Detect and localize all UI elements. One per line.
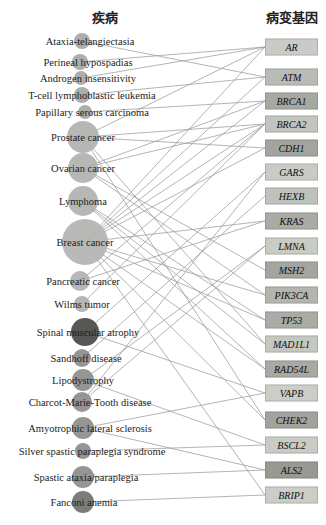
gene-node-vapb: VAPB bbox=[265, 385, 318, 402]
disease-label-breast-cancer: Breast cancer bbox=[57, 237, 114, 248]
gene-label-als2: ALS2 bbox=[281, 465, 303, 476]
gene-node-msh2: MSH2 bbox=[265, 262, 318, 279]
gene-label-tp53: TP53 bbox=[281, 315, 303, 326]
gene-node-gars: GARS bbox=[265, 164, 318, 181]
gene-node-ar: AR bbox=[265, 39, 318, 56]
gene-label-ar: AR bbox=[285, 42, 297, 53]
diseases-column-header: 疾病 bbox=[92, 7, 118, 26]
gene-node-tp53: TP53 bbox=[265, 312, 318, 329]
gene-node-kras: KRAS bbox=[265, 213, 318, 230]
gene-node-brip1: BRIP1 bbox=[265, 487, 318, 504]
disease-label-sandhoff-disease: Sandhoff disease bbox=[50, 353, 121, 364]
gene-label-cdh1: CDH1 bbox=[278, 143, 304, 154]
genes-column-header: 病变基因 bbox=[266, 7, 318, 26]
disease-label-spastic-ataxia-paraplegia: Spastic ataxia/paraplegia bbox=[34, 472, 139, 483]
disease-label-lymphoma: Lymphoma bbox=[59, 196, 107, 207]
gene-label-bscl2: BSCL2 bbox=[277, 440, 305, 451]
disease-label-ataxia-telangiectasia: Ataxia-telangiectasia bbox=[46, 36, 135, 47]
gene-label-msh2: MSH2 bbox=[279, 265, 305, 276]
disease-label-fanconi-anemia: Fanconi anemia bbox=[51, 497, 118, 508]
gene-label-atm: ATM bbox=[282, 72, 302, 83]
gene-label-brca2: BRCA2 bbox=[277, 119, 307, 130]
gene-node-bscl2: BSCL2 bbox=[265, 437, 318, 454]
gene-node-pik3ca: PIK3CA bbox=[265, 287, 318, 304]
disease-label-ovarian-cancer: Ovarian cancer bbox=[51, 163, 115, 174]
gene-label-pik3ca: PIK3CA bbox=[275, 290, 309, 301]
disease-label-lipodystrophy: Lipodystrophy bbox=[52, 375, 114, 386]
disease-label-charcot-marie-tooth-disease: Charcot-Marie-Tooth disease bbox=[29, 397, 152, 408]
gene-node-chek2: CHEK2 bbox=[265, 412, 318, 429]
gene-label-rad54l: RAD54L bbox=[274, 364, 309, 375]
gene-label-gars: GARS bbox=[279, 167, 303, 178]
disease-label-wilms-tumor: Wilms tumor bbox=[54, 299, 109, 310]
gene-node-lmna: LMNA bbox=[265, 238, 318, 255]
edge-breast-cancer--atm bbox=[85, 77, 265, 242]
gene-node-cdh1: CDH1 bbox=[265, 140, 318, 157]
disease-gene-network-figure: 疾病 病变基因 Ataxia-telangiectasiaPerineal hy… bbox=[0, 0, 326, 525]
gene-node-mad1l1: MAD1L1 bbox=[265, 336, 318, 353]
gene-node-brca2: BRCA2 bbox=[265, 116, 318, 133]
disease-label-papillary-serous-carcinoma: Papillary serous carcinoma bbox=[35, 107, 149, 118]
disease-label-spinal-muscular-atrophy: Spinal muscular atrophy bbox=[37, 327, 140, 338]
gene-label-brip1: BRIP1 bbox=[278, 490, 305, 501]
gene-node-als2: ALS2 bbox=[265, 462, 318, 479]
gene-node-rad54l: RAD54L bbox=[265, 361, 318, 378]
gene-node-hexb: HEXB bbox=[265, 188, 318, 205]
gene-label-vapb: VAPB bbox=[280, 388, 304, 399]
disease-label-perineal-hypospadias: Perineal hypospadias bbox=[44, 57, 133, 68]
gene-label-mad1l1: MAD1L1 bbox=[273, 339, 310, 350]
gene-label-hexb: HEXB bbox=[279, 191, 305, 202]
gene-label-kras: KRAS bbox=[280, 216, 304, 227]
gene-label-brca1: BRCA1 bbox=[277, 96, 307, 107]
gene-label-chek2: CHEK2 bbox=[276, 415, 308, 426]
disease-label-prostate-cancer: Prostate cancer bbox=[51, 132, 115, 143]
gene-node-atm: ATM bbox=[265, 69, 318, 86]
edge-lipodystrophy--bscl2 bbox=[83, 380, 265, 445]
disease-label-silver-spastic-paraplegia-syndrome: Silver spastic paraplegia syndrome bbox=[19, 446, 166, 457]
gene-node-brca1: BRCA1 bbox=[265, 93, 318, 110]
disease-label-t-cell-lymphoblastic-leukemia: T-cell lymphoblastic leukemia bbox=[28, 90, 155, 101]
disease-label-androgen-insensitivity: Androgen insensitivity bbox=[40, 73, 136, 84]
disease-label-pancreatic-cancer: Pancreatic cancer bbox=[46, 276, 120, 287]
disease-label-amyotrophic-lateral-sclerosis: Amyotrophic lateral sclerosis bbox=[28, 423, 152, 434]
gene-label-lmna: LMNA bbox=[278, 241, 305, 252]
